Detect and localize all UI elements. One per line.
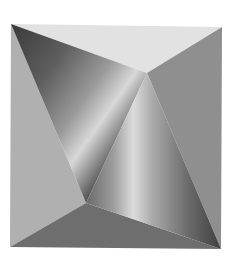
illustration-svg (0, 0, 230, 273)
geometric-illustration (0, 0, 230, 273)
